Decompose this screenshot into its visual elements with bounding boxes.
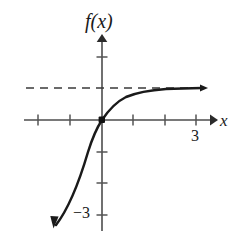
curve-right-arrowhead bbox=[200, 85, 208, 92]
y-tick-label-neg3: −3 bbox=[73, 205, 90, 221]
x-tick-label-3: 3 bbox=[191, 128, 199, 144]
graph-figure: f(x) x 3 −3 bbox=[0, 0, 242, 234]
x-axis-arrowhead bbox=[210, 115, 218, 126]
y-axis-label: f(x) bbox=[85, 11, 113, 31]
x-axis-label: x bbox=[220, 112, 228, 129]
plot-canvas bbox=[0, 0, 242, 234]
y-axis-arrowhead bbox=[97, 34, 108, 42]
origin-point-marker bbox=[99, 117, 105, 123]
